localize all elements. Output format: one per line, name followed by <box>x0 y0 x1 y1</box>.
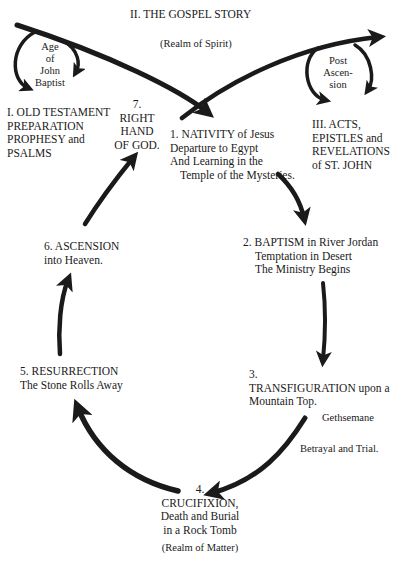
nativity-label: 1. NATIVITY of JesusDeparture to EgyptAn… <box>170 128 295 182</box>
gethsemane-label: Gethsemane <box>322 412 374 424</box>
realm-spirit-label: (Realm of Spirit) <box>160 38 232 50</box>
arrow-5-to-6 <box>59 280 68 354</box>
resurrection-label: 5. RESURRECTIONThe Stone Rolls Away <box>20 365 123 392</box>
baptism-label: 2. BAPTISM in River JordanTemptation in … <box>243 236 378 277</box>
betrayal-label: Betrayal and Trial. <box>300 443 378 455</box>
arrow-4-to-5 <box>78 408 178 491</box>
crucifixion-label: 4.CRUCIFIXION,Death and Burialin a Rock … <box>150 483 250 537</box>
acts-epistles-label: III. ACTS,EPISTLES andREVELATIONSof ST. … <box>312 118 390 172</box>
old-testament-label: I. OLD TESTAMENTPREPARATIONPROPHESY andP… <box>7 106 110 160</box>
realm-matter-label: (Realm of Matter) <box>150 542 250 554</box>
arrow-3-to-4 <box>212 418 305 493</box>
right-hand-of-god-label: 7.RIGHTHANDOF GOD. <box>112 98 162 152</box>
arrow-2-to-3 <box>323 283 325 360</box>
post-ascension-label: PostAscen-sion <box>318 55 358 91</box>
transfiguration-label: 3.TRANSFIGURATION upon aMountain Top. <box>249 368 390 409</box>
age-john-baptist-label: AgeofJohnBaptist <box>30 41 70 89</box>
diagram-title: II. THE GOSPEL STORY <box>130 8 251 22</box>
ascension-label: 6. ASCENSIONinto Heaven. <box>44 240 119 267</box>
arrow-6-to-7 <box>85 158 133 224</box>
